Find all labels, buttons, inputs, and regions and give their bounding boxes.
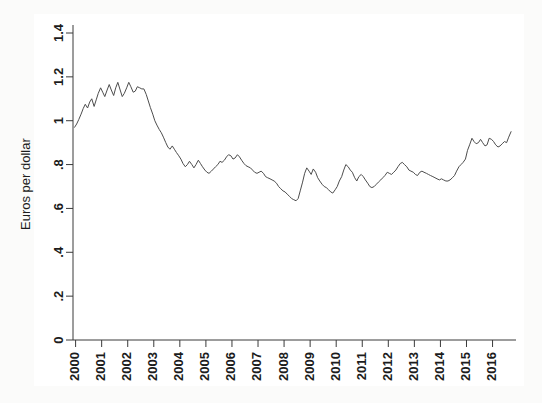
x-tick-label: 2007	[249, 352, 264, 381]
x-tick-label: 2010	[328, 352, 343, 381]
x-tick-label: 2014	[432, 351, 447, 381]
x-tick-label: 2011	[354, 352, 369, 380]
x-tick-label: 2006	[223, 352, 238, 381]
y-tick-label: 1.2	[51, 68, 66, 86]
x-tick-label: 2012	[380, 352, 395, 381]
x-tick-label: 2015	[458, 352, 473, 381]
x-tick-label: 2003	[145, 352, 160, 381]
y-tick-label: 1.4	[51, 23, 66, 42]
x-tick-label: 2008	[276, 352, 291, 381]
y-axis-tick-labels: 0.2.4.6.811.21.4	[51, 23, 66, 343]
y-tick-label: .4	[51, 246, 66, 258]
x-axis-tick-labels: 2000200120022003200420052006200720082009…	[67, 351, 499, 381]
x-tick-label: 2000	[67, 352, 82, 381]
x-tick-label: 2004	[171, 351, 186, 381]
data-series-line	[75, 82, 511, 200]
y-tick-label: 0	[51, 336, 66, 343]
x-tick-label: 2016	[484, 352, 499, 381]
y-tick-label: .2	[51, 291, 66, 302]
y-tick-label: 1	[51, 117, 66, 124]
y-axis-tick-marks	[66, 33, 73, 340]
x-axis-tick-marks	[76, 340, 493, 347]
x-tick-label: 2001	[93, 352, 108, 381]
y-tick-label: .6	[51, 203, 66, 214]
x-tick-label: 2009	[302, 352, 317, 381]
y-tick-label: .8	[51, 159, 66, 170]
chart-root: 0.2.4.6.811.21.4 20002001200220032004200…	[0, 0, 542, 403]
x-tick-label: 2005	[197, 352, 212, 381]
x-tick-label: 2002	[119, 352, 134, 381]
line-chart: 0.2.4.6.811.21.4 20002001200220032004200…	[0, 0, 542, 403]
y-axis-title: Euros per dollar	[18, 138, 33, 230]
x-tick-label: 2013	[406, 352, 421, 381]
